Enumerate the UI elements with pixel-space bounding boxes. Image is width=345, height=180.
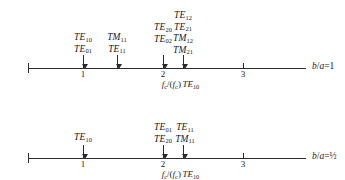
caption-close-paren: ) — [178, 169, 181, 179]
aspect-ratio-label-upper: b/a=1 — [312, 61, 334, 71]
mode-marker-arrow-upper-3 — [163, 55, 164, 68]
axis-endcap-lower — [28, 153, 29, 163]
mode-marker-arrow-lower-1 — [83, 145, 84, 158]
mode-label: TE21 — [158, 22, 208, 34]
mode-label: TM11 — [160, 134, 210, 146]
mode-marker-arrow-lower-2 — [163, 145, 164, 158]
axis-caption-lower: fc/(fc)TE10 — [0, 169, 345, 179]
mode-label: TM21 — [158, 45, 208, 57]
mode-label: TE11 — [92, 44, 142, 56]
axis-endcap-upper — [28, 63, 29, 73]
caption-close-paren: ) — [178, 79, 181, 89]
ratio-value: ½ — [330, 151, 337, 161]
mode-label: TE12 — [158, 10, 208, 22]
ratio-value: 1 — [330, 61, 335, 71]
mode-marker-arrow-upper-2 — [117, 55, 118, 68]
mode-label: TE10 — [58, 132, 108, 144]
spectrum-panel-lower: 1 2 3 TE10 TE01 TE20 TE11 TM11 b/a=½ fc/… — [0, 90, 345, 180]
mode-marker-arrow-lower-3 — [183, 145, 184, 158]
mode-marker-arrow-upper-4 — [183, 55, 184, 68]
caption-mode-ref: TE10 — [182, 169, 199, 179]
mode-label-group-lower-1: TE10 — [58, 132, 108, 144]
mode-label: TM11 — [92, 32, 142, 44]
caption-mode-ref: TE10 — [182, 79, 199, 89]
waveguide-mode-spectrum-figure: 1 2 3 TE10 TE01 TM11 TE11 TE20 TE02 TE12… — [0, 0, 345, 180]
mode-label-group-lower-3: TE11 TM11 — [160, 122, 210, 145]
axis-caption-upper: fc/(fc)TE10 — [0, 79, 345, 89]
mode-label: TM12 — [158, 33, 208, 45]
spectrum-panel-upper: 1 2 3 TE10 TE01 TM11 TE11 TE20 TE02 TE12… — [0, 0, 345, 90]
mode-marker-arrow-upper-1 — [83, 55, 84, 68]
mode-label-group-upper-2: TM11 TE11 — [92, 32, 142, 55]
aspect-ratio-label-lower: b/a=½ — [312, 151, 337, 161]
mode-label: TE11 — [160, 122, 210, 134]
mode-label-group-upper-4: TE12 TE21 TM12 TM21 — [158, 10, 208, 56]
